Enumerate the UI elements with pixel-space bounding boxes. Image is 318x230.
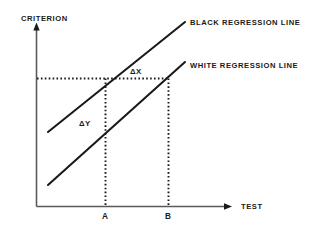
delta-x-annotation: ΔX [130,67,142,76]
white-regression-line-label: WHITE REGRESSION LINE [190,61,298,70]
regression-diagram: CRITERION TEST BLACK REGRESSION LINE WHI… [0,0,318,230]
black-regression-line [48,22,185,132]
x-axis-arrowhead [224,203,232,209]
figure-canvas: CRITERION TEST BLACK REGRESSION LINE WHI… [0,0,318,230]
axis-group [33,23,232,210]
tick-label-b: B [165,212,171,221]
delta-y-annotation: ΔY [79,119,91,128]
reference-lines-group [37,79,169,207]
y-axis-arrowhead [33,23,39,31]
black-regression-line-label: BLACK REGRESSION LINE [190,18,300,27]
regression-lines-group [48,22,185,185]
x-axis-label: TEST [241,202,263,211]
tick-label-a: A [102,212,108,221]
white-regression-line [48,62,185,185]
y-axis-label: CRITERION [21,14,68,23]
